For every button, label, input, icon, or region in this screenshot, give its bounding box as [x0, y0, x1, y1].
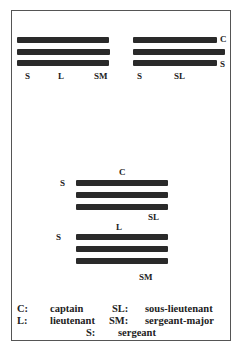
legend-abbr-sl: SL:	[112, 303, 128, 315]
label-sm: SM	[94, 71, 108, 81]
stripe	[76, 234, 168, 240]
stripe	[76, 192, 168, 198]
stripe	[76, 204, 168, 210]
legend-abbr-s: S:	[86, 327, 95, 339]
label-s: S	[56, 232, 61, 242]
label-sm: SM	[139, 272, 153, 282]
stripe	[76, 258, 168, 264]
stripe	[76, 246, 168, 252]
label-s: S	[137, 71, 142, 81]
legend-abbr-l: L:	[17, 315, 28, 327]
legend-abbr-sm: SM:	[109, 315, 128, 327]
stripe	[17, 37, 109, 43]
legend-meaning-sous-lieutenant: sous-lieutenant	[145, 303, 213, 315]
label-l: L	[58, 71, 64, 81]
legend-abbr-c: C:	[17, 303, 28, 315]
stripe	[17, 49, 110, 55]
stripe	[133, 49, 225, 55]
stripe	[17, 60, 109, 66]
label-s: S	[220, 59, 225, 69]
label-sl: SL	[174, 71, 185, 81]
stripe	[133, 37, 217, 43]
legend-meaning-sergeant-major: sergeant-major	[145, 315, 214, 327]
label-sl: SL	[148, 212, 159, 222]
label-c: C	[119, 167, 126, 177]
label-c: C	[220, 34, 227, 44]
stripe	[133, 60, 217, 66]
label-s: S	[60, 178, 65, 188]
label-l: L	[116, 222, 122, 232]
legend-meaning-sergeant: sergeant	[118, 327, 156, 339]
legend-meaning-captain: captain	[50, 303, 83, 315]
legend-meaning-lieutenant: lieutenant	[50, 315, 95, 327]
stripe	[76, 180, 168, 186]
label-s: S	[25, 71, 30, 81]
